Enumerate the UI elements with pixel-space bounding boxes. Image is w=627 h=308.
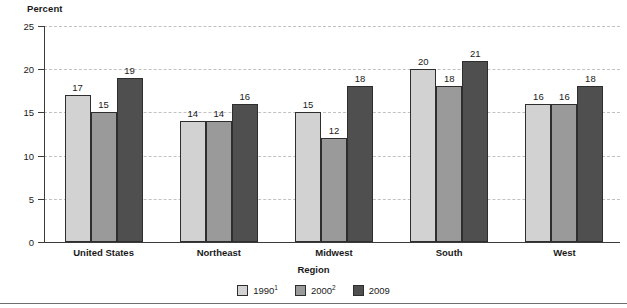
legend-item-2009[interactable]: 2009 <box>353 285 390 296</box>
legend-footnote-marker: 1 <box>274 284 278 291</box>
bar-group: 141416 <box>180 26 258 242</box>
bar-value-label: 16 <box>232 91 258 102</box>
y-tick-20 <box>38 69 45 70</box>
bar-group: 171519 <box>65 26 143 242</box>
bar-value-label: 19 <box>117 65 143 76</box>
bar-value-label: 15 <box>295 99 321 110</box>
legend-footnote-marker: 2 <box>332 284 336 291</box>
y-tick-label-0: 0 <box>0 237 34 248</box>
x-axis-line <box>44 242 620 243</box>
legend-swatch-icon <box>295 285 306 296</box>
bar <box>436 86 462 242</box>
bar <box>295 112 321 242</box>
y-tick-0 <box>38 242 45 243</box>
bar-value-label: 14 <box>206 108 232 119</box>
bar-group: 151218 <box>295 26 373 242</box>
category-label-south: South <box>389 247 509 258</box>
legend-label: 2009 <box>369 285 390 296</box>
bar <box>462 61 488 242</box>
footer-rule <box>0 303 627 304</box>
bar <box>91 112 117 242</box>
bar-group: 161618 <box>525 26 603 242</box>
bar-value-label: 14 <box>180 108 206 119</box>
bar-value-label: 18 <box>436 73 462 84</box>
bar <box>410 69 436 242</box>
y-tick-label-20: 20 <box>0 64 34 75</box>
bar-value-label: 15 <box>91 99 117 110</box>
x-axis-title: Region <box>0 264 627 275</box>
bar <box>525 104 551 242</box>
plot-area: 171519141416151218201821161618 <box>44 26 620 242</box>
bar-value-label: 20 <box>410 56 436 67</box>
bar-value-label: 16 <box>525 91 551 102</box>
category-label-united-states: United States <box>44 247 164 258</box>
legend-swatch-icon <box>353 285 364 296</box>
bar-value-label: 18 <box>577 73 603 84</box>
bar <box>551 104 577 242</box>
legend-swatch-icon <box>237 285 248 296</box>
bar <box>577 86 603 242</box>
category-label-west: West <box>504 247 624 258</box>
y-tick-label-5: 5 <box>0 193 34 204</box>
legend-item-2000[interactable]: 20002 <box>295 285 336 296</box>
y-tick-label-10: 10 <box>0 150 34 161</box>
bar <box>232 104 258 242</box>
bar-value-label: 16 <box>551 91 577 102</box>
bar-chart: Percent 171519141416151218201821161618 0… <box>0 0 627 308</box>
bar-value-label: 17 <box>65 82 91 93</box>
y-tick-label-25: 25 <box>0 21 34 32</box>
y-tick-25 <box>38 26 45 27</box>
bar <box>65 95 91 242</box>
y-tick-15 <box>38 112 45 113</box>
bar <box>180 121 206 242</box>
legend-label: 20002 <box>311 285 336 296</box>
bar-value-label: 21 <box>462 48 488 59</box>
y-axis-title: Percent <box>27 3 63 14</box>
y-axis-line <box>44 26 45 243</box>
y-tick-10 <box>38 156 45 157</box>
bar <box>206 121 232 242</box>
bar-group: 201821 <box>410 26 488 242</box>
y-tick-5 <box>38 199 45 200</box>
bar <box>117 78 143 242</box>
legend-item-1990[interactable]: 19901 <box>237 285 278 296</box>
legend-label: 19901 <box>253 285 278 296</box>
bar <box>347 86 373 242</box>
category-label-northeast: Northeast <box>159 247 279 258</box>
category-label-midwest: Midwest <box>274 247 394 258</box>
y-tick-label-15: 15 <box>0 107 34 118</box>
bar <box>321 138 347 242</box>
chart-legend: 19901200022009 <box>0 285 627 296</box>
bar-value-label: 12 <box>321 125 347 136</box>
bar-value-label: 18 <box>347 73 373 84</box>
